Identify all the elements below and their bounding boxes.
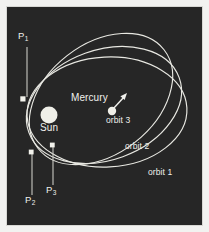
perihelion-3-letter: P [46, 184, 52, 195]
precession-diagram-figure: Sun Mercury orbit 3 orbit 2 orbit 1 P1 P… [0, 0, 209, 232]
sun-label: Sun [40, 123, 58, 133]
orbit-2-path [10, 26, 198, 184]
perihelion-1-subscript: 1 [25, 35, 29, 42]
mercury-velocity-arrow [113, 93, 127, 109]
orbit-2-label: orbit 2 [125, 142, 149, 151]
orbit-1-label: orbit 1 [148, 168, 172, 177]
orbit-3-label: orbit 3 [106, 116, 130, 125]
sun-body [41, 107, 58, 124]
p1-marker [20, 96, 25, 101]
p3-marker [50, 143, 55, 148]
p2-marker [29, 150, 34, 155]
perihelion-3-subscript: 3 [53, 189, 57, 196]
perihelion-2-label: P2 [25, 195, 35, 205]
perihelion-3-label: P3 [46, 185, 56, 195]
perihelion-2-subscript: 2 [32, 199, 36, 206]
perihelion-1-letter: P [18, 30, 24, 41]
perihelion-1-label: P1 [18, 31, 28, 41]
mercury-body [108, 107, 116, 115]
mercury-label: Mercury [71, 93, 108, 103]
diagram-frame: Sun Mercury orbit 3 orbit 2 orbit 1 P1 P… [6, 6, 203, 226]
orbit-scene [7, 7, 203, 226]
perihelion-2-letter: P [25, 194, 31, 205]
